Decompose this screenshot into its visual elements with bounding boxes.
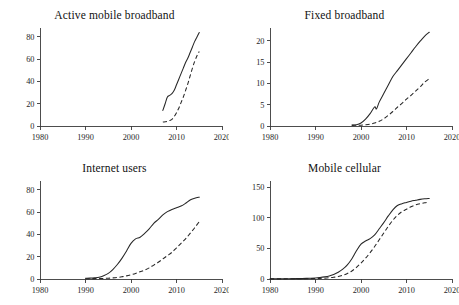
chart-panel-fixed-broadband: Fixed broadband 051015201980199020002010… — [230, 0, 459, 152]
x-tick-label: 2000 — [353, 286, 370, 295]
y-tick-label: 60 — [26, 208, 34, 217]
x-tick-label: 2010 — [168, 133, 185, 142]
y-tick-label: 40 — [26, 230, 34, 239]
x-tick-label: 1980 — [32, 133, 49, 142]
x-tick-label: 1980 — [32, 286, 49, 295]
y-tick-label: 0 — [30, 275, 34, 284]
x-tick-label: 2010 — [168, 286, 185, 295]
series-line-developing — [270, 202, 429, 279]
series-line-developing — [352, 79, 429, 126]
x-tick-label: 1980 — [262, 133, 279, 142]
y-tick-label: 100 — [252, 214, 264, 223]
chart-svg: 02040608019801990200020102020 — [0, 0, 229, 152]
y-tick-label: 0 — [260, 122, 264, 131]
series-line-developed — [352, 32, 429, 125]
x-tick-label: 2020 — [444, 286, 459, 295]
series-line-developed — [270, 198, 429, 278]
y-tick-label: 0 — [30, 122, 34, 131]
x-tick-label: 2000 — [353, 133, 370, 142]
y-tick-label: 15 — [256, 58, 264, 67]
x-tick-label: 2010 — [398, 286, 415, 295]
chart-svg: 05010015019801990200020102020 — [230, 153, 459, 305]
x-tick-label: 1990 — [307, 133, 324, 142]
chart-panel-mobile-cellular: Mobile cellular 050100150198019902000201… — [230, 153, 459, 305]
chart-panel-internet-users: Internet users 0204060801980199020002010… — [0, 153, 229, 305]
figure-panel-grid: Active mobile broadband 0204060801980199… — [0, 0, 459, 305]
x-tick-label: 1990 — [307, 286, 324, 295]
x-tick-label: 2020 — [214, 286, 229, 295]
y-tick-label: 80 — [26, 33, 34, 42]
y-tick-label: 10 — [256, 79, 264, 88]
y-tick-label: 60 — [26, 55, 34, 64]
x-tick-label: 2000 — [123, 133, 140, 142]
y-tick-label: 20 — [256, 37, 264, 46]
series-line-developing — [86, 222, 200, 279]
y-tick-label: 5 — [260, 101, 264, 110]
chart-svg: 02040608019801990200020102020 — [0, 153, 229, 305]
y-tick-label: 150 — [252, 183, 264, 192]
series-line-developing — [163, 51, 199, 122]
x-tick-label: 2010 — [398, 133, 415, 142]
x-tick-label: 2020 — [214, 133, 229, 142]
series-line-developed — [86, 197, 200, 278]
y-tick-label: 50 — [256, 244, 264, 253]
chart-svg: 0510152019801990200020102020 — [230, 0, 459, 152]
x-tick-label: 1990 — [77, 286, 94, 295]
x-tick-label: 2020 — [444, 133, 459, 142]
y-tick-label: 0 — [260, 275, 264, 284]
y-tick-label: 40 — [26, 77, 34, 86]
y-tick-label: 20 — [26, 100, 34, 109]
y-tick-label: 20 — [26, 253, 34, 262]
chart-panel-active-mobile-broadband: Active mobile broadband 0204060801980199… — [0, 0, 229, 152]
series-line-developed — [163, 32, 199, 110]
y-tick-label: 80 — [26, 186, 34, 195]
x-tick-label: 1980 — [262, 286, 279, 295]
x-tick-label: 1990 — [77, 133, 94, 142]
x-tick-label: 2000 — [123, 286, 140, 295]
